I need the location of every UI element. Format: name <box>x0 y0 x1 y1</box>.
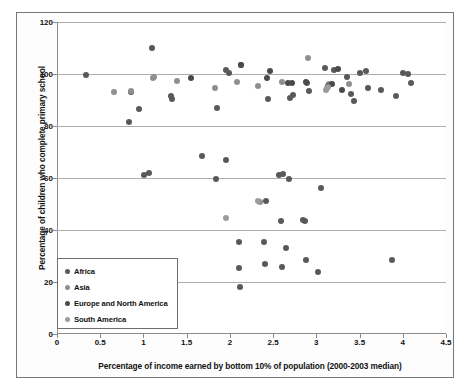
data-point <box>279 264 285 270</box>
y-tick-label: 120 <box>40 18 53 27</box>
data-point <box>289 80 295 86</box>
x-tick-label: 0 <box>55 338 59 347</box>
y-tick-mark <box>53 126 57 127</box>
data-point <box>212 85 218 91</box>
data-point <box>174 78 180 84</box>
data-point <box>305 55 311 61</box>
data-point <box>303 79 309 85</box>
data-point <box>318 185 324 191</box>
data-point <box>351 98 357 104</box>
gridline-y <box>57 126 446 127</box>
data-point <box>236 265 242 271</box>
data-point <box>357 70 363 76</box>
data-point <box>315 269 321 275</box>
data-point <box>128 88 134 94</box>
x-tick-label: 3.5 <box>354 338 365 347</box>
data-point <box>264 75 270 81</box>
legend-label: Asia <box>74 283 90 292</box>
data-point <box>339 87 345 93</box>
data-point <box>389 257 395 263</box>
data-point <box>136 106 142 112</box>
data-point <box>322 65 328 71</box>
data-point <box>325 84 331 90</box>
data-point <box>146 170 152 176</box>
legend-marker-icon <box>65 317 70 322</box>
legend-item[interactable]: Europe and North America <box>65 296 177 311</box>
data-point <box>302 218 308 224</box>
data-point <box>263 198 269 204</box>
data-point <box>151 74 157 80</box>
x-tick-label: 4.5 <box>440 338 451 347</box>
x-axis-title: Percentage of income earned by bottom 10… <box>40 361 460 371</box>
data-point <box>214 105 220 111</box>
data-point <box>83 72 89 78</box>
data-point <box>261 239 267 245</box>
legend-label: Europe and North America <box>74 299 168 308</box>
data-point <box>365 85 371 91</box>
data-point <box>111 89 117 95</box>
legend-marker-icon <box>65 301 70 306</box>
y-tick-mark <box>53 230 57 231</box>
y-tick-label: 0 <box>49 330 53 339</box>
data-point <box>226 70 232 76</box>
x-tick-label: 4 <box>401 338 405 347</box>
data-point <box>255 83 261 89</box>
data-point <box>149 45 155 51</box>
data-point <box>303 257 309 263</box>
data-point <box>335 66 341 72</box>
data-point <box>255 198 261 204</box>
data-point <box>238 62 244 68</box>
x-tick-label: 3 <box>314 338 318 347</box>
data-point <box>290 92 296 98</box>
data-point <box>236 239 242 245</box>
legend-marker-icon <box>65 269 70 274</box>
data-point <box>393 93 399 99</box>
y-tick-mark <box>53 178 57 179</box>
data-point <box>188 75 194 81</box>
x-tick-label: 1 <box>141 338 145 347</box>
gridline-y <box>57 178 446 179</box>
data-point <box>348 91 354 97</box>
data-point <box>286 176 292 182</box>
gridline-y <box>57 230 446 231</box>
legend-items: AfricaAsiaEurope and North AmericaSouth … <box>65 264 177 327</box>
data-point <box>408 80 414 86</box>
y-tick-mark <box>53 74 57 75</box>
x-tick-label: 2.5 <box>268 338 279 347</box>
data-point <box>306 88 312 94</box>
y-tick-mark <box>53 22 57 23</box>
gridline-y <box>57 74 446 75</box>
y-tick-label: 60 <box>44 174 53 183</box>
data-point <box>234 79 240 85</box>
data-point <box>213 176 219 182</box>
x-tick-label: 2 <box>228 338 232 347</box>
data-point <box>344 74 350 80</box>
data-point <box>363 68 369 74</box>
data-point <box>265 96 271 102</box>
scatter-chart-figure: Percentage of children who complete prim… <box>0 0 466 388</box>
y-tick-label: 20 <box>44 278 53 287</box>
data-point <box>278 218 284 224</box>
data-point <box>223 157 229 163</box>
data-point <box>405 71 411 77</box>
data-point <box>223 215 229 221</box>
x-tick-label: 1.5 <box>181 338 192 347</box>
legend-label: South America <box>74 315 126 324</box>
legend-item[interactable]: Africa <box>65 264 177 279</box>
legend-item[interactable]: Asia <box>65 280 177 295</box>
gridline-y <box>57 22 446 23</box>
data-point <box>283 245 289 251</box>
data-point <box>199 153 205 159</box>
y-tick-label: 40 <box>44 226 53 235</box>
y-tick-label: 100 <box>40 70 53 79</box>
legend-label: Africa <box>74 267 95 276</box>
chart-legend: AfricaAsiaEurope and North AmericaSouth … <box>57 258 178 329</box>
y-tick-label: 80 <box>44 122 53 131</box>
data-point <box>346 81 352 87</box>
data-point <box>262 261 268 267</box>
legend-item[interactable]: South America <box>65 312 177 327</box>
data-point <box>169 96 175 102</box>
x-tick-label: 0.5 <box>95 338 106 347</box>
y-axis-title: Percentage of children who complete prim… <box>37 43 47 293</box>
legend-marker-icon <box>65 285 70 290</box>
